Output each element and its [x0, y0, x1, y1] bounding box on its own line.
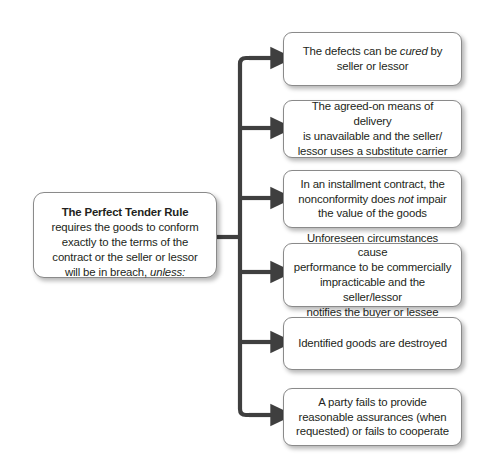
flowchart-diagram: The Perfect Tender Rulerequires the good… [0, 0, 491, 475]
root-node-line-4: will be in breach, [65, 266, 150, 278]
spine-path [240, 58, 249, 415]
root-node-line-4-emphasis: unless: [150, 266, 185, 278]
branch-node-installment-nonconformity: In an installment contract, the nonconfo… [283, 170, 462, 228]
root-node-line-2: exactly to the terms of the [62, 236, 188, 248]
branch-node-text-1: The agreed-on means of delivery is unava… [293, 99, 452, 158]
root-node-line-1: requires the goods to conform [52, 221, 199, 233]
branch-node-text-0: The defects can be cured by seller or le… [303, 44, 443, 74]
root-node-heading: The Perfect Tender Rule [52, 205, 199, 220]
branch-node-defects-cured: The defects can be cured by seller or le… [283, 32, 462, 86]
branch-node-text-5: A party fails to provide reasonable assu… [296, 395, 449, 439]
root-node-line-3: contract or the seller or lessor [52, 251, 197, 263]
root-node-perfect-tender-rule: The Perfect Tender Rulerequires the good… [33, 192, 217, 278]
branch-node-substitute-carrier: The agreed-on means of delivery is unava… [283, 100, 462, 158]
branch-node-text-2: In an installment contract, the nonconfo… [298, 177, 446, 221]
branch-node-text-4: Identified goods are destroyed [298, 336, 447, 351]
branch-node-text-3: Unforeseen circumstances cause performan… [293, 231, 452, 320]
root-node-text: The Perfect Tender Rulerequires the good… [52, 190, 199, 280]
branch-node-commercial-impracticability: Unforeseen circumstances cause performan… [283, 243, 462, 307]
branch-node-goods-destroyed: Identified goods are destroyed [283, 317, 462, 370]
branch-node-failure-to-assure: A party fails to provide reasonable assu… [283, 388, 462, 446]
